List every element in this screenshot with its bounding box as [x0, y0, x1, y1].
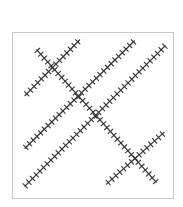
hatched-lines-diagram	[0, 0, 183, 207]
diagram-canvas	[0, 0, 183, 207]
hatched-line-c	[23, 44, 168, 189]
hatched-line-b	[23, 39, 136, 150]
